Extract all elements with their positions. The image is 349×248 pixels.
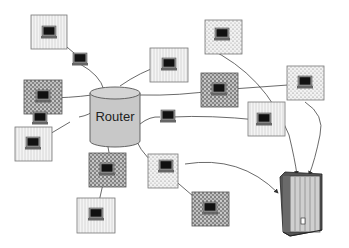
computer-icon: [211, 83, 227, 96]
node-n12[interactable]: [192, 192, 229, 226]
node-n11[interactable]: [148, 154, 178, 188]
computer-icon: [25, 137, 41, 150]
arrow-n11-server: [185, 162, 278, 193]
node-n5[interactable]: [77, 198, 115, 233]
link-c3-n10: [172, 116, 258, 120]
server-icon[interactable]: [280, 172, 322, 236]
node-n8[interactable]: [201, 73, 238, 107]
node-n9[interactable]: [287, 66, 324, 100]
node-n10[interactable]: [248, 102, 285, 136]
computer-icon: [161, 58, 177, 71]
computer-icon: [214, 28, 230, 41]
computer-icon: [297, 76, 313, 89]
computer-icon: [88, 208, 104, 221]
node-n3[interactable]: [15, 127, 52, 161]
link-router-c3: [140, 117, 160, 124]
node-n4[interactable]: [89, 153, 126, 187]
computer-icon: [99, 163, 115, 176]
node-n1[interactable]: [31, 15, 67, 49]
computer-icon: [35, 90, 51, 103]
link-c1-router: [80, 64, 104, 90]
node-n7[interactable]: [205, 20, 242, 54]
computer-icon: [41, 26, 57, 39]
arrow-n9-server: [305, 102, 321, 175]
router[interactable]: Router: [90, 87, 140, 147]
computer-icon-c1[interactable]: [72, 53, 88, 66]
router-label: Router: [95, 109, 135, 124]
network-diagram: Router: [0, 0, 349, 248]
computer-icon: [256, 113, 272, 126]
computer-icon-c3[interactable]: [160, 110, 176, 123]
node-n2[interactable]: [24, 80, 62, 114]
computer-icon-c2[interactable]: [32, 112, 48, 125]
computer-icon: [202, 202, 218, 215]
node-n6[interactable]: [150, 48, 188, 82]
computer-icon: [158, 160, 174, 173]
